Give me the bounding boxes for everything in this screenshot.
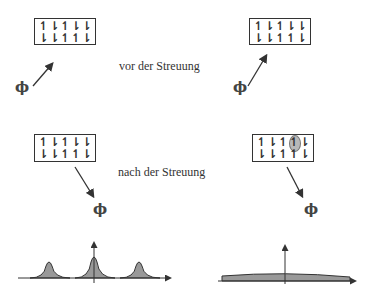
plot-bragg-peaks <box>18 243 170 283</box>
spin-down-icon: ⇂ <box>81 148 92 160</box>
spin-up-icon: ↿ <box>70 32 81 44</box>
spin-down-icon: ⇂ <box>267 148 278 160</box>
spin-up-icon: ↿ <box>60 32 71 44</box>
spin-down-icon: ⇂ <box>81 32 92 44</box>
spin-lattice-after-right: ↿⇂↿↿⇂⇂⇂↿↿⇂ <box>252 134 314 162</box>
spin-down-icon: ⇂ <box>49 32 60 44</box>
spin-lattice-before-left: ↿⇂↿⇂⇂⇂⇂↿↿⇂ <box>34 18 96 45</box>
spin-down-icon: ⇂ <box>256 148 267 160</box>
outgoing-arrow <box>75 167 93 196</box>
spin-up-icon: ↿ <box>60 148 71 160</box>
spin-up-icon: ↿ <box>288 148 299 160</box>
plot-diffuse-background <box>218 246 355 284</box>
spin-lattice-after-left: ↿⇂↿⇂⇂⇂⇂↿↿⇂ <box>34 134 96 162</box>
spin-up-icon: ↿ <box>278 148 289 160</box>
spin-down-icon: ⇂ <box>296 32 307 44</box>
incoming-arrow <box>33 64 52 86</box>
spin-up-icon: ↿ <box>275 32 286 44</box>
spin-down-icon: ⇂ <box>253 32 264 44</box>
spin-lattice-before-right: ↿⇂↿⇂⇂⇂⇂↿↿⇂ <box>249 18 311 45</box>
spin-down-icon: ⇂ <box>299 148 310 160</box>
spin-down-icon: ⇂ <box>49 148 60 160</box>
spin-down-icon: ⇂ <box>38 148 49 160</box>
outgoing-arrow <box>287 167 302 196</box>
spin-up-icon: ↿ <box>70 148 81 160</box>
spin-up-icon: ↿ <box>285 32 296 44</box>
incoming-arrow <box>248 56 266 86</box>
spin-down-icon: ⇂ <box>264 32 275 44</box>
spin-down-icon: ⇂ <box>38 32 49 44</box>
